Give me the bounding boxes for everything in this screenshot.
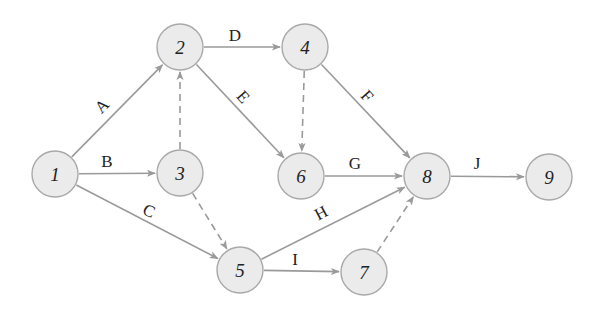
node-label: 3	[174, 163, 185, 184]
node-label: 5	[235, 260, 245, 281]
activity-edge-i	[264, 270, 339, 271]
node-1: 1	[32, 151, 78, 197]
node-3: 3	[157, 150, 203, 196]
activity-edge-f	[321, 64, 409, 157]
dummy-edge-3-5	[193, 193, 227, 248]
activity-edge-j	[451, 176, 524, 177]
node-label: 2	[175, 37, 185, 58]
node-label: 6	[296, 166, 306, 187]
edge-label-h: H	[311, 202, 331, 225]
dummy-edge-4-6	[302, 71, 304, 151]
activity-edge-c	[76, 185, 218, 258]
edge-label-i: I	[292, 250, 298, 269]
network-diagram: ABCDEFGHIJ 123456789	[0, 0, 592, 317]
node-label: 4	[300, 37, 310, 58]
node-8: 8	[404, 153, 450, 199]
node-4: 4	[282, 24, 328, 70]
node-6: 6	[278, 153, 324, 199]
edge-label-e: E	[232, 87, 253, 107]
edge-label-b: B	[101, 152, 112, 171]
edge-label-g: G	[349, 154, 361, 173]
edge-label-f: F	[357, 86, 377, 106]
node-label: 1	[50, 164, 60, 185]
activity-edge-h	[261, 187, 404, 259]
activity-edge-a	[72, 65, 163, 157]
nodes-layer: 123456789	[32, 24, 572, 295]
node-label: 7	[359, 262, 370, 283]
node-label: 8	[422, 166, 432, 187]
node-7: 7	[341, 249, 387, 295]
node-2: 2	[157, 24, 203, 70]
edge-label-j: J	[474, 154, 481, 173]
node-label: 9	[544, 167, 554, 188]
edge-label-d: D	[229, 26, 241, 45]
activity-edge-b	[79, 173, 155, 174]
node-9: 9	[526, 154, 572, 200]
activity-edge-e	[196, 65, 283, 158]
edge-label-a: A	[91, 94, 114, 117]
dummy-edge-7-8	[377, 197, 413, 252]
node-5: 5	[217, 247, 263, 293]
edge-labels-layer: ABCDEFGHIJ	[91, 26, 481, 269]
